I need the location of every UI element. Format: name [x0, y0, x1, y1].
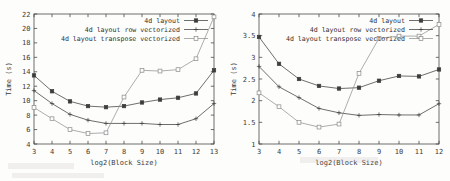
legend-sample-marker-1 [194, 27, 198, 31]
data-point-marker [397, 74, 400, 77]
data-point-marker [212, 15, 216, 19]
x-tick-label: 7 [104, 148, 108, 156]
data-point-marker [417, 75, 420, 78]
x-tick-label: 9 [377, 148, 381, 156]
legend-label-1: 4d layout row vectorized [85, 26, 180, 34]
figure-two-panel-line-charts: 34567891011121346810121416182022log2(Blo… [0, 0, 450, 181]
data-point-marker [32, 74, 35, 77]
x-tick-label: 5 [297, 148, 301, 156]
left-chart-svg: 34567891011121346810121416182022log2(Blo… [0, 0, 225, 181]
x-tick-label: 8 [357, 148, 361, 156]
y-tick-label: 8 [26, 112, 30, 120]
data-point-marker [140, 101, 143, 104]
y-tick-label: 6 [26, 126, 30, 134]
y-tick-label: 10 [22, 97, 30, 105]
series-1 [257, 64, 441, 117]
data-point-marker [377, 79, 380, 82]
data-point-marker [257, 91, 261, 95]
y-tick-label: 2.5 [243, 76, 256, 84]
x-tick-label: 10 [395, 148, 403, 156]
series-line [259, 37, 439, 89]
data-point-marker [194, 19, 197, 22]
y-axis-label: Time (s) [230, 62, 238, 96]
legend-label-0: 4d layout [144, 17, 180, 25]
data-point-marker [357, 86, 360, 89]
data-point-marker [337, 87, 340, 90]
legend-label-2: 4d layout transpose vectorized [286, 35, 405, 43]
data-point-marker [86, 104, 89, 107]
series-0 [32, 69, 215, 109]
x-tick-label: 8 [122, 148, 126, 156]
series-line [259, 66, 439, 115]
y-tick-label: 22 [22, 11, 30, 19]
data-point-marker [212, 69, 215, 72]
y-tick-label: 1 [251, 141, 255, 149]
data-point-marker [122, 104, 125, 107]
chart-panel-left: 34567891011121346810121416182022log2(Blo… [0, 0, 225, 181]
data-point-marker [50, 90, 53, 93]
x-tick-label: 12 [435, 148, 443, 156]
x-tick-label: 13 [210, 148, 218, 156]
x-tick-label: 12 [192, 148, 200, 156]
y-tick-label: 16 [22, 54, 30, 62]
x-tick-label: 7 [337, 148, 341, 156]
data-point-marker [68, 100, 71, 103]
data-point-marker [194, 37, 198, 41]
series-line [34, 70, 214, 107]
legend-label-2: 4d layout transpose vectorized [61, 35, 180, 43]
data-point-marker [50, 117, 54, 121]
y-tick-label: 14 [22, 68, 30, 76]
data-point-marker [419, 37, 423, 41]
legend-sample-marker-1 [419, 27, 423, 31]
legend-sample-marker-2 [419, 37, 423, 41]
data-point-marker [419, 19, 422, 22]
data-point-marker [277, 105, 281, 109]
x-tick-label: 3 [257, 148, 261, 156]
y-tick-label: 2 [251, 97, 255, 105]
x-tick-label: 3 [32, 148, 36, 156]
legend-sample-marker-2 [194, 37, 198, 41]
data-point-marker [158, 69, 162, 73]
data-point-marker [68, 128, 72, 132]
data-point-marker [277, 62, 280, 65]
y-tick-label: 20 [22, 25, 30, 33]
data-point-marker [257, 35, 260, 38]
x-tick-label: 4 [277, 148, 281, 156]
data-point-marker [437, 68, 440, 71]
x-tick-label: 11 [415, 148, 423, 156]
data-point-marker [140, 68, 144, 72]
x-tick-label: 11 [174, 148, 182, 156]
data-point-marker [297, 120, 301, 124]
data-point-marker [122, 95, 126, 99]
data-point-marker [437, 23, 441, 27]
x-tick-label: 10 [156, 148, 164, 156]
y-tick-label: 1.5 [243, 119, 256, 127]
data-point-marker [104, 105, 107, 108]
x-tick-label: 6 [86, 148, 90, 156]
data-point-marker [317, 84, 320, 87]
y-tick-label: 3 [251, 54, 255, 62]
data-point-marker [176, 68, 180, 72]
data-point-marker [337, 122, 341, 126]
data-point-marker [317, 125, 321, 129]
data-point-marker [32, 106, 36, 110]
data-point-marker [104, 131, 108, 135]
data-point-marker [194, 57, 198, 61]
y-tick-label: 4 [26, 141, 30, 149]
y-axis-label: Time (s) [5, 62, 13, 96]
x-axis-label: log2(Block Size) [90, 159, 157, 167]
data-point-marker [357, 71, 361, 75]
right-chart-svg: 345678910111211.522.533.54log2(Block Siz… [225, 0, 450, 181]
data-point-marker [176, 96, 179, 99]
x-tick-label: 9 [140, 148, 144, 156]
y-tick-label: 3.5 [243, 32, 256, 40]
x-tick-label: 4 [50, 148, 54, 156]
legend-sample-marker-0 [194, 19, 197, 22]
series-0 [257, 35, 440, 90]
x-tick-label: 5 [68, 148, 72, 156]
chart-panel-right: 345678910111211.522.533.54log2(Block Siz… [225, 0, 450, 181]
data-point-marker [194, 92, 197, 95]
y-tick-label: 12 [22, 83, 30, 91]
y-tick-label: 18 [22, 39, 30, 47]
y-tick-label: 4 [251, 11, 255, 19]
